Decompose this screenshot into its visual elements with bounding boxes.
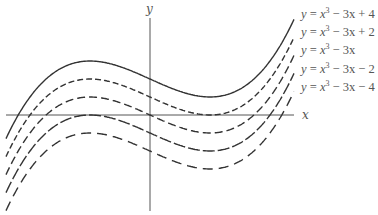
legend-item-minus-4: y = x3 − 3x − 4 <box>301 80 375 94</box>
legend-rest: − 3x − 4 <box>329 80 374 94</box>
legend-lhs: y <box>301 43 307 57</box>
x-axis-label: x <box>302 109 309 121</box>
legend-item-minus-2: y = x3 − 3x − 2 <box>301 62 375 76</box>
legend-lhs: y <box>301 25 307 39</box>
legend-item-plus-4: y = x3 − 3x + 4 <box>301 7 375 21</box>
y-axis-label: y <box>146 3 153 15</box>
legend-rest: − 3x − 2 <box>329 62 374 76</box>
legend-rest: − 3x + 4 <box>329 7 374 21</box>
legend-item-zero: y = x3 − 3x <box>301 43 355 57</box>
cubic-family-chart: y x y = x3 − 3x + 4 y = x3 − 3x + 2 y = … <box>0 0 378 215</box>
legend-lhs: y <box>301 7 307 21</box>
legend-rest: − 3x + 2 <box>329 25 374 39</box>
legend-lhs: y <box>301 62 307 76</box>
legend-item-plus-2: y = x3 − 3x + 2 <box>301 25 375 39</box>
legend-rest: − 3x <box>329 43 355 57</box>
legend-lhs: y <box>301 80 307 94</box>
